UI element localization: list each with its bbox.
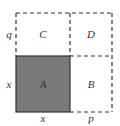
side-label-x-left: x	[6, 78, 12, 90]
region-d-label: D	[86, 28, 95, 40]
side-label-q: q	[6, 28, 12, 40]
region-c-label: C	[39, 28, 47, 40]
region-b-label: B	[88, 78, 95, 90]
side-label-p: p	[87, 112, 94, 124]
side-label-x-bottom: x	[40, 112, 46, 124]
region-a-label: A	[39, 78, 47, 90]
area-diagram: A B C D q x x p	[0, 0, 120, 126]
